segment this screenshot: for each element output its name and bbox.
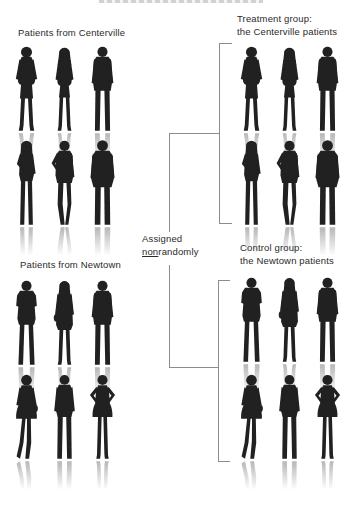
person-silhouette-man-hand-on-hip bbox=[273, 140, 306, 226]
person-silhouette-man-casual bbox=[273, 374, 306, 460]
connector-bottom-horizontal bbox=[169, 367, 218, 368]
label-control-line1: Control group: bbox=[240, 242, 334, 255]
person-silhouette-man-casual bbox=[48, 374, 81, 460]
person-silhouette-woman-skirt-bag bbox=[235, 374, 268, 460]
person-silhouette-woman-long-hair bbox=[48, 46, 81, 132]
person-silhouette-man-large bbox=[86, 140, 119, 226]
label-control-line2: the Newtown patients bbox=[240, 255, 334, 268]
bracket-treatment-arm-bottom bbox=[219, 223, 232, 224]
person-silhouette-man-standing bbox=[86, 46, 119, 132]
person-silhouette-woman-long-hair bbox=[273, 46, 306, 132]
person-silhouette-man-standing bbox=[311, 46, 344, 132]
person-silhouette-man-arms-crossed bbox=[235, 277, 268, 363]
label-treatment-line1: Treatment group: bbox=[237, 13, 337, 26]
person-silhouette-woman-pants bbox=[10, 140, 43, 226]
assigned-rest: randomly bbox=[158, 246, 198, 257]
connector-left-vertical-lower bbox=[169, 265, 170, 367]
cropped-text-remnant bbox=[99, 0, 263, 3]
silhouette-reflection bbox=[48, 226, 81, 260]
person-silhouette-woman-hands-on-hips bbox=[86, 374, 119, 460]
silhouette-reflection bbox=[235, 460, 268, 494]
bracket-control-arm-bottom bbox=[218, 461, 230, 462]
connector-top-horizontal bbox=[169, 133, 219, 134]
figure-row-treatment-2 bbox=[235, 140, 344, 226]
bracket-treatment-arm-top bbox=[219, 43, 232, 44]
figure-row-control-1 bbox=[235, 277, 344, 363]
label-assigned-line1: Assigned bbox=[142, 233, 199, 246]
bracket-control-vertical bbox=[218, 280, 219, 462]
connector-left-vertical-upper bbox=[169, 133, 170, 233]
underlined-non: non bbox=[142, 246, 158, 257]
person-silhouette-man-hand-on-hip bbox=[48, 140, 81, 226]
figure-row-newtown-2 bbox=[10, 374, 119, 460]
bracket-control-arm-top bbox=[218, 280, 230, 281]
person-silhouette-man-arms-crossed bbox=[10, 280, 43, 366]
figure-row-centerville-2 bbox=[10, 140, 119, 226]
person-silhouette-woman-dress bbox=[10, 46, 43, 132]
silhouette-reflection bbox=[48, 460, 81, 494]
label-control-group: Control group: the Newtown patients bbox=[240, 242, 334, 267]
person-silhouette-woman-coat-bag bbox=[273, 277, 306, 363]
person-silhouette-man-large bbox=[311, 140, 344, 226]
person-silhouette-man-standing bbox=[311, 277, 344, 363]
label-patients-newtown: Patients from Newtown bbox=[20, 259, 121, 272]
silhouette-reflection bbox=[273, 460, 306, 494]
silhouette-reflection bbox=[311, 460, 344, 494]
bracket-treatment-vertical bbox=[219, 43, 220, 224]
silhouette-reflection bbox=[86, 226, 119, 260]
diagram-canvas: Patients from Centerville Treatment grou… bbox=[0, 0, 362, 515]
person-silhouette-woman-pants bbox=[235, 140, 268, 226]
person-silhouette-woman-coat-bag bbox=[48, 280, 81, 366]
person-silhouette-woman-hands-on-hips bbox=[311, 374, 344, 460]
label-assigned-nonrandomly: Assigned nonrandomly bbox=[142, 232, 202, 259]
figure-row-newtown-1 bbox=[10, 280, 119, 366]
figure-row-treatment-1 bbox=[235, 46, 344, 132]
silhouette-reflection bbox=[10, 460, 43, 494]
figure-row-centerville-1 bbox=[10, 46, 119, 132]
silhouette-reflection bbox=[10, 226, 43, 260]
silhouette-reflection bbox=[86, 460, 119, 494]
figure-row-control-2 bbox=[235, 374, 344, 460]
label-treatment-line2: the Centerville patients bbox=[237, 26, 337, 39]
label-assigned-line2: nonrandomly bbox=[142, 246, 199, 259]
person-silhouette-man-standing bbox=[86, 280, 119, 366]
label-patients-centerville: Patients from Centerville bbox=[18, 27, 125, 40]
label-treatment-group: Treatment group: the Centerville patient… bbox=[237, 13, 337, 38]
person-silhouette-woman-dress bbox=[235, 46, 268, 132]
person-silhouette-woman-skirt-bag bbox=[10, 374, 43, 460]
